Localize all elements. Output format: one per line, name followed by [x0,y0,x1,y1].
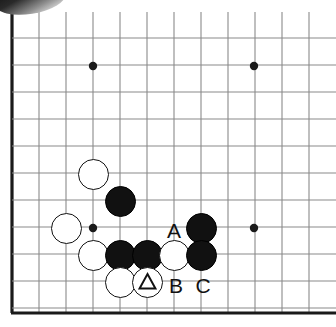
star-point-bottom-right [250,224,258,232]
label-a: A [167,220,181,241]
black-stone[interactable] [105,240,136,271]
star-point-bottom-left [89,224,97,232]
star-point-top-left [89,62,97,70]
star-point-top-right [250,62,258,70]
label-b: B [169,275,183,296]
white-stone[interactable] [159,240,190,271]
go-board-diagram: ABC [0,0,336,327]
white-stone[interactable] [78,240,109,271]
black-stone[interactable] [132,240,163,271]
triangle-icon [139,274,155,289]
white-stone[interactable] [51,213,82,244]
black-stone[interactable] [186,240,217,271]
white-stone[interactable] [78,159,109,190]
white-stone[interactable] [105,267,136,298]
black-stone[interactable] [186,213,217,244]
black-stone[interactable] [105,186,136,217]
white-stone-triangle-marked[interactable] [132,267,163,298]
label-c: C [195,275,210,296]
